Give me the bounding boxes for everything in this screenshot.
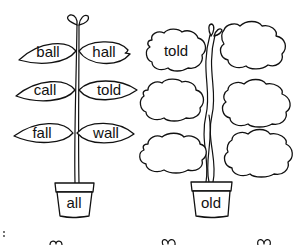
stem [210, 35, 215, 182]
leaf-told: told [79, 81, 137, 100]
stem [204, 35, 210, 182]
pot-label: all [66, 194, 81, 211]
leaf-word: hall [92, 43, 115, 60]
all-plant: ball hall call told fall wall all [14, 15, 137, 218]
sprout-leaf [79, 15, 88, 25]
cloud-leaf-blank[interactable] [140, 79, 203, 121]
leaf-word: told [97, 81, 121, 98]
leaf-hall: hall [79, 42, 130, 64]
leaf-word: fall [32, 124, 51, 141]
sprout-leaf [68, 15, 78, 25]
cloud-leaf-blank[interactable] [221, 22, 286, 69]
word-family-plants-worksheet: ball hall call told fall wall all [0, 0, 301, 245]
cloud-leaf-blank[interactable] [225, 130, 293, 178]
leaf-word: ball [36, 43, 59, 60]
leaf-fall: fall [14, 124, 73, 143]
stem [75, 25, 77, 183]
cloud-leaf-blank[interactable] [223, 80, 291, 128]
partial-sprout-icon [50, 241, 62, 245]
leaf-word: wall [92, 124, 119, 141]
sprout-leaf [209, 24, 214, 36]
partial-sprout-icon [258, 240, 271, 245]
stem [208, 115, 211, 182]
cloud-leaf-blank[interactable] [140, 133, 207, 173]
partial-sprout-icon [162, 240, 175, 245]
leaf-wall: wall [77, 123, 134, 143]
flower-pot: all [55, 183, 94, 218]
cloud-word: told [164, 42, 188, 59]
old-plant: told old [140, 22, 293, 218]
leaf-ball: ball [19, 43, 76, 63]
flower-pot: old [191, 182, 232, 218]
pot-label: old [201, 194, 221, 211]
sprout-leaf [214, 29, 222, 36]
bottom-decorations [3, 231, 270, 245]
leaf-call: call [16, 81, 75, 101]
leaf-word: call [34, 81, 57, 98]
cloud-leaf-told: told [146, 29, 205, 71]
